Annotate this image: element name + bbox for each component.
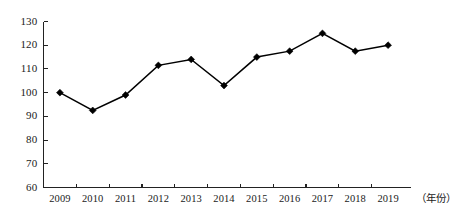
y-tick-label: 90 (8, 110, 38, 121)
line-chart: 60708090100110120130 2009201020112012201… (0, 0, 457, 218)
data-point-markers (57, 30, 392, 114)
x-tick-label: 2011 (109, 193, 142, 204)
data-series-line (60, 33, 388, 110)
y-tick-label: 120 (8, 39, 38, 50)
y-tick-label: 130 (8, 16, 38, 27)
data-point-marker (57, 89, 64, 96)
x-tick-label: 2017 (306, 193, 339, 204)
x-tick-label: 2012 (142, 193, 175, 204)
y-tick-label: 100 (8, 87, 38, 98)
x-tick-label: 2010 (76, 193, 109, 204)
x-axis-title: （年份） (416, 193, 456, 204)
y-tick-label: 60 (8, 182, 38, 193)
y-tick-label: 70 (8, 158, 38, 169)
y-tick-label: 80 (8, 134, 38, 145)
x-tick-label: 2016 (273, 193, 306, 204)
x-tick-label: 2019 (372, 193, 405, 204)
chart-axes (44, 22, 411, 188)
chart-tick-marks (44, 22, 372, 188)
x-tick-label: 2018 (339, 193, 372, 204)
data-point-marker (385, 42, 392, 49)
series-line-path (60, 33, 388, 110)
x-tick-label: 2009 (44, 193, 77, 204)
x-tick-label: 2013 (175, 193, 208, 204)
data-point-marker (89, 107, 96, 114)
data-point-marker (319, 30, 326, 37)
chart-plot-area (0, 0, 457, 218)
data-point-marker (352, 48, 359, 55)
y-tick-label: 110 (8, 63, 38, 74)
x-tick-label: 2015 (240, 193, 273, 204)
data-point-marker (286, 48, 293, 55)
x-tick-label: 2014 (208, 193, 241, 204)
